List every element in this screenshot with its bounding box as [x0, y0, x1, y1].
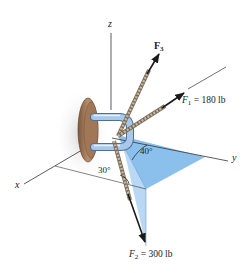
force-f1-arrow — [162, 93, 184, 108]
y-axis-label: y — [232, 153, 236, 163]
f3-label: F3 — [154, 41, 164, 53]
x-axis-label: x — [15, 180, 19, 190]
angle-30-label: 30° — [98, 166, 111, 175]
f2-label: F2 = 300 lb — [129, 250, 172, 261]
f1-value: = 180 lb — [191, 95, 225, 105]
force-f1-line-of-action — [188, 67, 226, 89]
force-diagram — [0, 0, 247, 273]
force-f3-arrow — [147, 54, 159, 74]
f2-value: = 300 lb — [138, 249, 172, 259]
angle-40-label: 40° — [140, 147, 153, 156]
f1-label: F1 = 180 lb — [182, 96, 225, 107]
z-axis-label: z — [108, 19, 112, 29]
f3-sub: 3 — [160, 45, 164, 53]
